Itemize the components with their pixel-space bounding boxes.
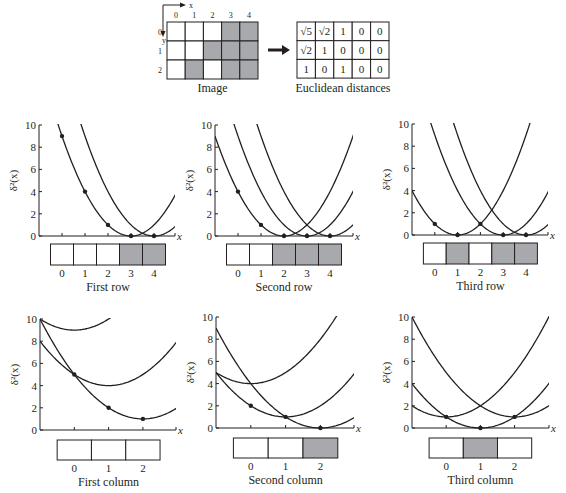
strip-cell: [423, 243, 446, 264]
pixel-cell: [203, 60, 221, 79]
strip-cell: [233, 438, 268, 458]
y-tick-label: 0: [404, 229, 410, 241]
y-tick-label: 4: [31, 186, 37, 198]
y-tick-label: 10: [26, 313, 38, 325]
y-tick-label: 0: [31, 230, 37, 242]
strip-index-label: 2: [512, 460, 518, 472]
strip-cell: [515, 243, 538, 264]
x-axis-label: x: [176, 230, 182, 242]
strip-index-label: 2: [140, 462, 146, 474]
strip-cell: [296, 244, 319, 265]
parabola-curve: [412, 317, 551, 417]
col-label: 4: [247, 11, 251, 20]
strip-index-label: 1: [82, 267, 88, 279]
strip-cell: [429, 438, 463, 458]
y-tick-label: 8: [32, 335, 38, 347]
strip-cell: [463, 438, 497, 458]
y-axis-label: δ²(x): [380, 362, 393, 384]
y-tick-label: 0: [32, 424, 38, 436]
y-tick-label: 8: [404, 333, 410, 345]
y-axis-label: δ²(x): [184, 362, 197, 384]
x-arrowhead-icon: [180, 3, 186, 8]
parabola-curve: [40, 319, 179, 419]
parabola-curve: [412, 57, 550, 235]
strip-cell: [126, 440, 160, 460]
parabola-curve: [216, 370, 357, 417]
y-tick-label: 2: [32, 402, 38, 414]
y-tick-label: 8: [207, 141, 213, 153]
row-label: 0: [158, 28, 162, 37]
y-tick-label: 10: [398, 118, 410, 130]
strip-index-label: 1: [106, 462, 112, 474]
y-tick-label: 0: [404, 422, 410, 434]
distance-transform-figure: xy01234012Image √5√2100√2100010100Euclid…: [0, 0, 566, 493]
pixel-cell: [185, 41, 203, 60]
strip-cell: [97, 244, 120, 265]
strip-cell: [492, 243, 515, 264]
col-label: 2: [211, 11, 215, 20]
strip-index-label: 4: [327, 267, 333, 279]
parabola-curve: [216, 328, 357, 428]
y-tick-label: 2: [207, 208, 213, 220]
distance-point: [328, 234, 332, 238]
plot-first-column: x0246810δ²(x)012First column: [8, 227, 183, 489]
parabola-curve: [216, 280, 357, 383]
strip-cell: [143, 244, 166, 265]
distance-value: 1: [340, 63, 346, 75]
plot-caption: Third column: [448, 473, 514, 487]
pixel-cell: [222, 22, 240, 41]
distance-value: √2: [300, 44, 312, 56]
image-caption: Image: [198, 81, 228, 95]
y-tick-label: 8: [404, 140, 410, 152]
distance-point: [129, 234, 133, 238]
strip-index-label: 2: [281, 267, 287, 279]
y-tick-label: 2: [31, 208, 37, 220]
x-axis-label: x: [189, 1, 193, 10]
distance-caption: Euclidean distances: [296, 81, 391, 95]
y-tick-label: 6: [207, 163, 213, 175]
strip-index-label: 3: [304, 267, 310, 279]
pixel-cell: [240, 22, 258, 41]
distance-point: [524, 233, 528, 237]
distance-value: √2: [319, 25, 331, 37]
plot-caption: Second column: [248, 473, 322, 487]
y-tick-label: 4: [207, 186, 213, 198]
distance-value: 0: [359, 63, 365, 75]
distance-value: 1: [303, 63, 309, 75]
pixel-cell: [167, 60, 185, 79]
distance-point: [141, 417, 145, 421]
x-axis-label: x: [550, 422, 556, 434]
y-tick-label: 6: [208, 355, 214, 367]
y-tick-label: 0: [208, 422, 214, 434]
strip-index-label: 3: [500, 266, 506, 278]
strip-cell: [446, 243, 469, 264]
plots: x0246810δ²(x)01234First rowx0246810δ²(x)…: [7, 0, 556, 489]
plot-caption: First column: [78, 475, 139, 489]
strip-cell: [273, 244, 296, 265]
distance-point: [72, 372, 76, 376]
distance-point: [106, 223, 110, 227]
y-tick-label: 0: [207, 230, 213, 242]
y-tick-label: 4: [32, 380, 38, 392]
distance-point: [152, 234, 156, 238]
strip-cell: [57, 440, 91, 460]
parabola-curve: [412, 0, 550, 235]
y-tick-label: 10: [398, 311, 410, 323]
row-label: 2: [158, 66, 162, 75]
y-tick-label: 8: [208, 333, 214, 345]
strip-index-label: 4: [523, 266, 529, 278]
strip-cell: [303, 438, 338, 458]
x-axis-label: x: [549, 229, 555, 241]
strip-index-label: 1: [258, 267, 264, 279]
col-label: 0: [174, 11, 178, 20]
distance-point: [249, 404, 253, 408]
pixel-cell: [240, 41, 258, 60]
strip-index-label: 1: [283, 460, 289, 472]
y-axis-label: δ²(x): [380, 169, 393, 191]
strip-cell: [227, 244, 250, 265]
plot-caption: Third row: [456, 279, 505, 293]
col-label: 3: [229, 11, 233, 20]
strip-index-label: 2: [105, 267, 111, 279]
plot-caption: First row: [86, 280, 130, 294]
y-axis-label: y: [162, 36, 166, 45]
